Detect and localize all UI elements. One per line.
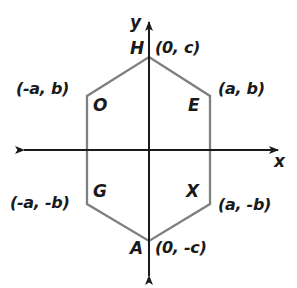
coordinate-label-h: (0, c) <box>155 40 200 56</box>
y-axis-label: y <box>130 14 141 31</box>
vertex-label-e: E <box>188 97 199 114</box>
coordinate-plane-figure: y x H O E G X A (0, c) (-a, b) (a, b) (-… <box>0 0 297 288</box>
coordinate-label-e: (a, b) <box>218 81 265 97</box>
vertex-label-g: G <box>93 183 107 200</box>
vertex-label-h: H <box>130 40 144 57</box>
coordinate-label-g: (-a, -b) <box>10 195 69 211</box>
coordinate-label-x: (a, -b) <box>218 197 271 213</box>
vertex-label-o: O <box>93 97 107 114</box>
figure-canvas <box>0 0 297 288</box>
vertex-label-x: X <box>186 183 199 200</box>
x-axis-label: x <box>274 153 285 170</box>
coordinate-label-a: (0, -c) <box>155 240 206 256</box>
vertex-label-a: A <box>130 240 143 257</box>
coordinate-label-o: (-a, b) <box>16 81 69 97</box>
